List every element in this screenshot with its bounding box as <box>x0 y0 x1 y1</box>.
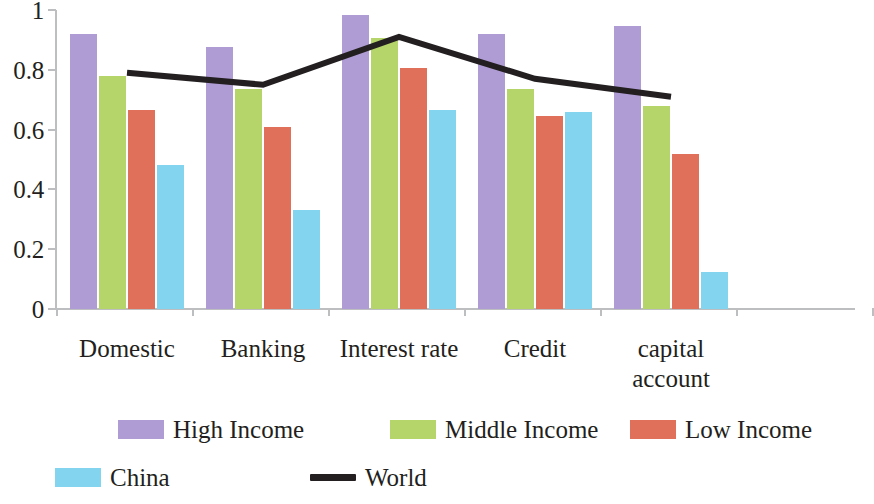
legend-color-swatch-icon <box>55 468 101 487</box>
x-axis-label: capital account <box>591 334 751 394</box>
bar <box>99 76 126 309</box>
bar <box>701 272 728 309</box>
bar <box>536 116 563 309</box>
legend-label: China <box>110 465 170 490</box>
bar <box>614 26 641 309</box>
bar <box>235 89 262 309</box>
bar <box>400 68 427 309</box>
bar <box>478 34 505 309</box>
legend-color-swatch-icon <box>390 420 436 439</box>
legend-item[interactable]: Middle Income <box>390 412 598 446</box>
bars-layer <box>0 0 873 330</box>
legend-item[interactable]: High Income <box>118 412 304 446</box>
legend-item[interactable]: Low Income <box>630 412 812 446</box>
bar <box>293 210 320 309</box>
legend-label: Low Income <box>685 417 812 442</box>
bar <box>672 154 699 309</box>
legend-label: High Income <box>173 417 304 442</box>
plot-area: 00.20.40.60.81 <box>0 0 873 330</box>
legend-color-swatch-icon <box>630 420 676 439</box>
bar <box>70 34 97 309</box>
bar <box>507 89 534 309</box>
legend-item[interactable]: World <box>310 460 427 494</box>
bar <box>157 165 184 309</box>
legend-color-swatch-icon <box>118 420 164 439</box>
bar <box>643 106 670 309</box>
x-axis-labels: DomesticBankingInterest rateCreditcapita… <box>0 330 873 410</box>
bar <box>264 127 291 309</box>
legend-line-swatch-icon <box>310 474 356 481</box>
bar <box>206 47 233 309</box>
chart-legend: High IncomeMiddle IncomeLow IncomeChinaW… <box>0 412 873 504</box>
bar <box>342 15 369 310</box>
legend-item[interactable]: China <box>55 460 170 494</box>
bar <box>128 110 155 309</box>
legend-label: Middle Income <box>445 417 598 442</box>
bar <box>371 38 398 309</box>
bar <box>429 110 456 309</box>
legend-label: World <box>365 465 427 490</box>
bar <box>565 112 592 309</box>
